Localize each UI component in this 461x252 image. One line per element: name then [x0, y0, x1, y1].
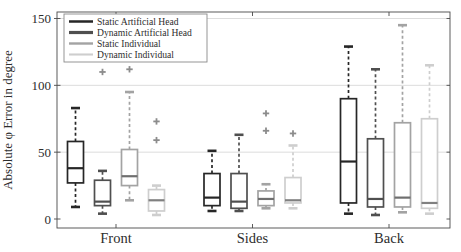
x-category-label-sides: Sides	[237, 230, 269, 246]
box-dynamic-individual-sides	[285, 178, 301, 203]
box-static-artificial-head-back	[341, 99, 357, 203]
plot-area: Static Artificial HeadDynamic Artificial…	[54, 12, 450, 228]
y-tick-label-0: 0	[45, 212, 52, 227]
y-tick-label-150: 150	[32, 11, 52, 26]
y-axis-label: Absolute φ Error in degree	[0, 50, 15, 190]
box-static-artificial-head-sides	[204, 174, 220, 206]
x-category-label-back: Back	[374, 230, 405, 246]
box-static-individual-front	[122, 149, 138, 185]
legend-label-static-individual: Static Individual	[97, 38, 161, 49]
box-dynamic-individual-back	[422, 119, 438, 209]
boxplot-canvas: Static Artificial HeadDynamic Artificial…	[0, 0, 461, 252]
legend-label-static-artificial-head: Static Artificial Head	[97, 16, 179, 27]
x-category-label-front: Front	[100, 230, 131, 246]
y-tick-label-100: 100	[32, 78, 52, 93]
box-dynamic-artificial-head-sides	[231, 174, 247, 209]
box-dynamic-artificial-head-back	[368, 139, 384, 207]
legend-label-dynamic-artificial-head: Dynamic Artificial Head	[97, 27, 192, 38]
y-tick-label-50: 50	[38, 145, 51, 160]
legend-label-dynamic-individual: Dynamic Individual	[97, 49, 174, 60]
box-static-artificial-head-front	[68, 141, 84, 182]
boxplot-figure: Static Artificial HeadDynamic Artificial…	[0, 0, 461, 252]
box-static-individual-back	[395, 123, 411, 207]
